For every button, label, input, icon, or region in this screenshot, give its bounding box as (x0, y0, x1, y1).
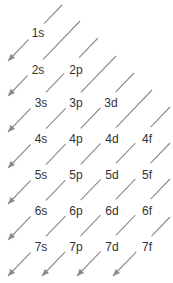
orbital-label-3p: 3p (69, 97, 82, 109)
diagonal-line (79, 38, 98, 58)
diagonal-line (116, 215, 136, 235)
orbital-label-7s: 7s (35, 241, 48, 253)
diagonal-line (116, 90, 152, 128)
orbital-label-3s: 3s (35, 97, 48, 109)
diagonal-line (152, 217, 170, 236)
diagonal-line (81, 56, 116, 92)
orbital-label-2p: 2p (69, 64, 82, 76)
orbital-label-4p: 4p (69, 133, 82, 145)
orbital-label-7p: 7p (69, 241, 82, 253)
diagonal-line (151, 143, 170, 163)
orbital-label-2s: 2s (32, 64, 45, 76)
diagonal-line (151, 179, 170, 199)
diagonal-line (116, 73, 134, 92)
diagonal-line (151, 107, 170, 127)
orbital-label-7f: 7f (142, 241, 152, 253)
orbital-label-1s: 1s (32, 27, 45, 39)
diagonal-line (46, 144, 66, 164)
diagonal-line (46, 108, 66, 128)
orbital-label-3d: 3d (104, 97, 117, 109)
diagonal-line (46, 74, 64, 93)
diagonal-line (44, 5, 62, 24)
diagonal-line (81, 108, 101, 128)
diagonal-line (116, 179, 136, 199)
orbital-label-5p: 5p (69, 169, 82, 181)
diagonal-line (46, 216, 66, 236)
orbital-label-7d: 7d (105, 241, 118, 253)
orbital-label-5d: 5d (105, 169, 118, 181)
orbital-label-4s: 4s (35, 133, 48, 145)
orbital-label-6d: 6d (105, 205, 118, 217)
diagonal-line (46, 180, 66, 200)
diagonal-line (81, 143, 101, 164)
orbital-label-6f: 6f (142, 205, 152, 217)
orbital-label-6p: 6p (69, 205, 82, 217)
orbital-label-6s: 6s (35, 205, 48, 217)
diagonal-line (43, 21, 80, 60)
orbital-label-5s: 5s (35, 169, 48, 181)
orbital-label-4d: 4d (105, 133, 118, 145)
diagonal-line (116, 143, 136, 163)
orbital-label-5f: 5f (142, 169, 152, 181)
diagonal-line (81, 179, 101, 200)
diagonal-line (80, 215, 100, 236)
orbital-label-4f: 4f (142, 133, 152, 145)
